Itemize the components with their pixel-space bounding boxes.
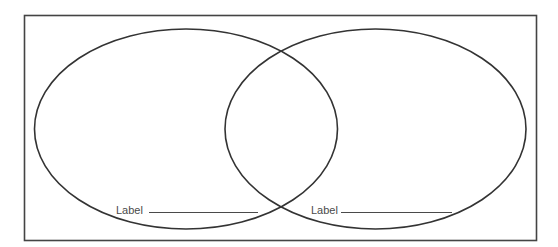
left-set-ellipse bbox=[35, 29, 338, 229]
venn-diagram: Label Label bbox=[0, 0, 558, 247]
right-set-ellipse bbox=[225, 29, 526, 229]
right-set-label: Label bbox=[311, 204, 338, 216]
left-set-label: Label bbox=[116, 204, 143, 216]
